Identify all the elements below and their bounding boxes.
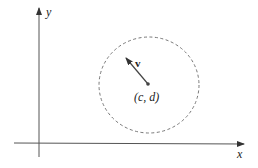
center-point-label: (c, d) <box>134 90 159 104</box>
vector-v-label: v <box>135 57 141 69</box>
y-axis-label: y <box>45 5 52 19</box>
center-point <box>146 82 150 86</box>
x-axis <box>14 143 244 144</box>
x-axis-label: x <box>236 147 243 161</box>
diagram: y x v (c, d) <box>0 0 258 168</box>
